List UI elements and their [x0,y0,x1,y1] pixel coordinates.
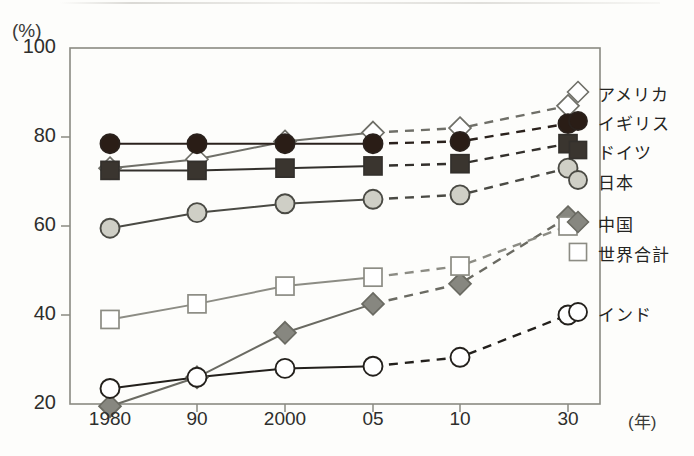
data-point-marker [364,134,383,153]
data-point-marker [276,134,295,153]
data-point-marker [188,295,206,313]
data-point-marker [101,161,119,179]
legend-marker-2 [569,141,586,158]
data-point-marker [274,322,296,344]
data-point-marker [451,348,470,367]
axis-tick-marks [61,137,568,412]
x-axis-tick-label: 10 [449,408,470,430]
data-point-marker [364,357,383,376]
series-line-solid [110,133,373,169]
data-point-marker [276,159,294,177]
data-point-marker [364,157,382,175]
data-point-marker [451,132,470,151]
series-line-dashed [373,217,568,304]
data-point-marker [101,134,120,153]
chart-page: (%) (年) 20406080100 1980902000051030 アメリ… [0,0,694,456]
series-line-solid [110,366,373,388]
data-point-marker [188,161,206,179]
x-axis-tick-label: 30 [557,408,578,430]
y-axis-tick-label: 100 [2,35,56,58]
x-axis-tick-label: 1980 [89,408,131,430]
data-point-marker [451,185,470,204]
y-axis-tick-label: 80 [2,124,56,147]
x-axis-tick-label: 2000 [264,408,306,430]
y-axis-tick-label: 60 [2,213,56,236]
plot-frame [70,48,600,404]
series-lines [110,106,568,406]
series-line-dashed [373,315,568,366]
data-point-marker [276,194,295,213]
data-point-marker [101,219,120,238]
legend-label-6: インド [598,301,652,326]
legend-label-4: 中国 [598,211,634,236]
y-axis-tick-label: 40 [2,302,56,325]
data-point-marker [449,273,471,295]
data-point-marker [362,293,384,315]
series-line-solid [110,199,373,228]
legend-label-0: アメリカ [598,81,669,106]
data-point-marker [451,257,469,275]
series-line-dashed [373,226,568,277]
legend-marker-5 [569,243,586,260]
data-point-marker [451,155,469,173]
data-point-marker [364,190,383,209]
data-point-marker [364,268,382,286]
line-chart-canvas [0,0,694,456]
legend-label-5: 世界合計 [598,241,670,266]
x-axis-tick-label: 90 [186,408,207,430]
y-axis-tick-label: 20 [2,391,56,414]
data-point-marker [101,310,119,328]
series-line-solid [110,166,373,170]
x-axis-tick-label: 05 [362,408,383,430]
legend-markers [568,82,589,321]
data-point-marker [188,134,207,153]
data-point-marker [276,277,294,295]
legend-marker-6 [569,303,587,321]
data-point-marker [101,379,120,398]
series-line-solid [110,277,373,319]
data-point-marker [276,359,295,378]
series-line-solid [110,304,373,406]
data-point-marker [188,203,207,222]
series-line-dashed [373,168,568,199]
legend-marker-1 [569,112,587,130]
series-line-dashed [373,144,568,166]
legend-marker-3 [569,171,587,189]
data-point-marker [188,368,207,387]
legend-label-3: 日本 [598,169,634,194]
legend-label-1: イギリス [598,110,670,135]
legend-label-2: ドイツ [598,139,652,164]
